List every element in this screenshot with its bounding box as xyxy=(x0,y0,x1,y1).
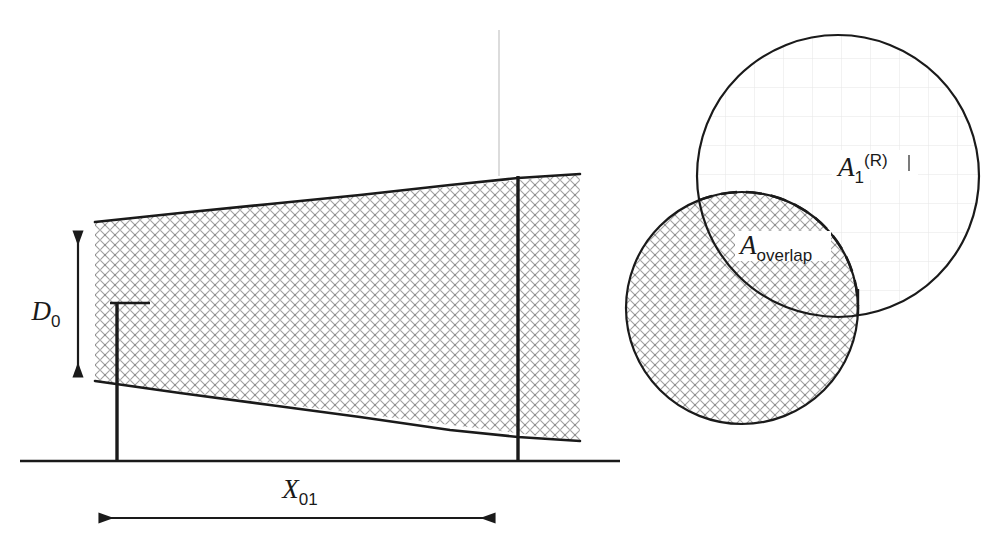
label-a-overlap-base: A xyxy=(738,230,757,260)
label-a1r-base: A xyxy=(836,152,855,182)
label-a-overlap-sub: overlap xyxy=(757,246,813,265)
label-d0-sub: 0 xyxy=(51,312,60,331)
label-a1r-sub: 1 xyxy=(855,168,864,187)
diagram-canvas: D0 X01 Aoverlap xyxy=(0,0,1003,549)
label-d0: D0 xyxy=(31,296,61,331)
label-d0-base: D xyxy=(31,296,52,326)
label-x01-base: X xyxy=(281,474,300,504)
label-x01-sub: 01 xyxy=(299,490,318,509)
label-x01: X01 xyxy=(281,474,317,509)
label-a1r-sup: (R) xyxy=(864,151,888,170)
figure-root: D0 X01 Aoverlap xyxy=(0,0,1003,549)
